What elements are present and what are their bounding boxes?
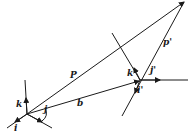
label-j-prime: j' <box>150 66 156 75</box>
label-k-prime: k' <box>127 69 136 78</box>
vector-j <box>27 114 42 122</box>
label-i-prime: i' <box>137 86 143 95</box>
label-P: P <box>70 71 77 80</box>
vector-p-prime <box>122 2 184 116</box>
label-i: i <box>14 124 17 133</box>
label-k: k <box>16 100 22 109</box>
vector-i <box>15 114 27 122</box>
vector-P <box>27 2 184 114</box>
label-j: j <box>44 105 47 114</box>
vector-k <box>26 98 27 114</box>
label-b: b <box>77 99 83 108</box>
diagram-canvas <box>0 0 190 137</box>
label-p-prime: p' <box>163 38 172 47</box>
